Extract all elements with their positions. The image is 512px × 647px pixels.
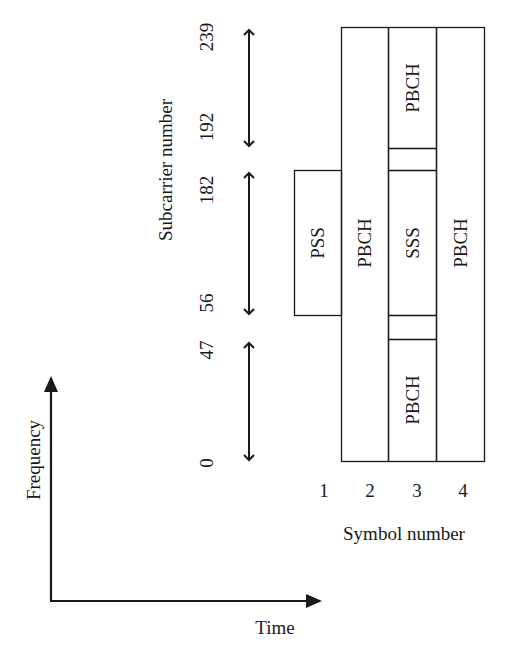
guard-gap-top [389, 149, 437, 171]
pbch-symbol3-bottom-label: PBCH [402, 375, 423, 425]
subcarrier-tick-192: 192 [196, 113, 217, 142]
symbol-tick-2: 2 [365, 480, 375, 501]
subcarrier-tick-47: 47 [196, 341, 217, 360]
symbol-axis-label: Symbol number [343, 523, 466, 544]
symbol-tick-3: 3 [412, 480, 422, 501]
sss-label: SSS [402, 227, 423, 259]
symbol-tick-4: 4 [458, 480, 468, 501]
pbch-symbol4-label: PBCH [450, 218, 471, 268]
frequency-axis-label: Frequency [23, 419, 44, 500]
subcarrier-tick-0: 0 [196, 458, 217, 468]
guard-gap-bottom [389, 316, 437, 340]
pbch-symbol3-top-label: PBCH [402, 63, 423, 113]
subcarrier-tick-239: 239 [196, 23, 217, 52]
ssb-diagram: Subcarrier number 239 192 182 56 47 0 PS… [0, 0, 512, 647]
subcarrier-tick-182: 182 [196, 176, 217, 205]
subcarrier-axis-label: Subcarrier number [155, 98, 176, 241]
pbch-symbol2-label: PBCH [354, 218, 375, 268]
time-axis-label: Time [255, 617, 294, 638]
symbol-tick-1: 1 [319, 480, 329, 501]
subcarrier-tick-56: 56 [196, 294, 217, 313]
pss-label: PSS [307, 227, 328, 259]
